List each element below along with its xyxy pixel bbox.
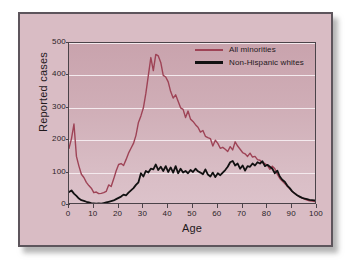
y-axis-title: Reported cases [37,27,49,157]
legend-color-swatch [195,61,223,64]
y-tick-label: 0 [40,200,66,208]
x-tick-mark [167,204,168,208]
y-tick-label: 100 [40,168,66,176]
x-axis-ticks: 0102030405060708090100 [68,204,316,220]
series-line [69,161,316,204]
x-tick-label: 30 [130,209,154,218]
x-tick-mark [68,204,69,208]
series-line [69,54,316,201]
x-tick-mark [118,204,119,208]
x-tick-label: 60 [205,209,229,218]
x-tick-label: 40 [155,209,179,218]
figure-card: 5004003002001000 Reported cases 01020304… [18,12,333,247]
x-tick-label: 10 [81,209,105,218]
x-tick-label: 20 [106,209,130,218]
x-axis-title: Age [68,222,316,234]
x-tick-mark [217,204,218,208]
legend-item: Non-Hispanic whites [195,57,320,68]
x-tick-label: 0 [56,209,80,218]
x-tick-mark [291,204,292,208]
x-tick-label: 70 [230,209,254,218]
x-tick-mark [142,204,143,208]
x-tick-mark [316,204,317,208]
legend-label: Non-Hispanic whites [229,58,304,67]
x-tick-label: 90 [279,209,303,218]
chart-legend: All minoritiesNon-Hispanic whites [195,44,320,70]
x-tick-mark [266,204,267,208]
x-tick-label: 80 [254,209,278,218]
x-tick-mark [192,204,193,208]
legend-color-swatch [195,49,223,51]
x-tick-mark [242,204,243,208]
legend-label: All minorities [229,45,276,54]
legend-item: All minorities [195,44,320,55]
x-tick-label: 100 [304,209,328,218]
x-tick-mark [93,204,94,208]
x-tick-label: 50 [180,209,204,218]
